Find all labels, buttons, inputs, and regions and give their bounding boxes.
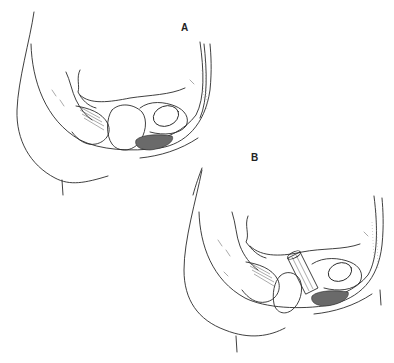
anatomical-figure: A B — [0, 0, 394, 363]
panel-label-a: A — [181, 22, 188, 33]
tampon-shape — [286, 249, 318, 294]
panel-b-drawing — [0, 0, 394, 363]
panel-label-b: B — [251, 152, 258, 163]
